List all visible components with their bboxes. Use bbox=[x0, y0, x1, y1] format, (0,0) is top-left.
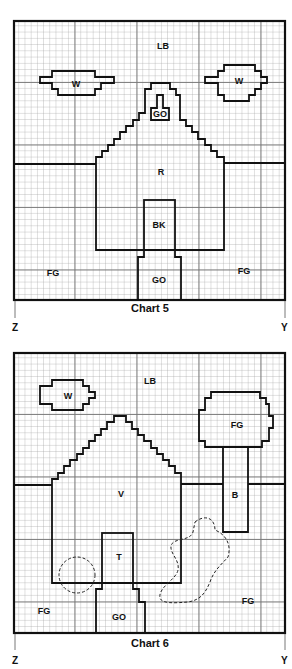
label-tree-top: FG bbox=[231, 420, 244, 430]
corner-label-y: Y bbox=[281, 655, 288, 666]
corner-label-z: Z bbox=[12, 655, 18, 666]
label-tree-trunk: B bbox=[232, 490, 239, 500]
chart-6: LB W FG B V T GO FG FG Chart 6 Z Y bbox=[0, 332, 292, 669]
chart-5-grid bbox=[0, 0, 292, 335]
label-house: R bbox=[158, 167, 165, 177]
label-sky: LB bbox=[157, 41, 169, 51]
label-ground-right: FG bbox=[242, 596, 255, 606]
label-ground-left: FG bbox=[47, 268, 60, 278]
label-ground-left: FG bbox=[38, 606, 51, 616]
label-path: GO bbox=[112, 612, 126, 622]
label-house: V bbox=[118, 489, 124, 499]
chart-5-caption: Chart 5 bbox=[131, 302, 169, 314]
label-cloud: W bbox=[64, 391, 73, 401]
label-cloud-right: W bbox=[235, 76, 244, 86]
label-cloud-left: W bbox=[72, 79, 81, 89]
chart-6-caption: Chart 6 bbox=[131, 637, 169, 649]
label-chimney-window: GO bbox=[153, 109, 167, 119]
label-ground-right: FG bbox=[238, 266, 251, 276]
chart-5: LB W W GO R BK GO FG FG Chart 5 Z Y bbox=[0, 0, 292, 335]
label-sky: LB bbox=[144, 376, 156, 386]
label-door: BK bbox=[153, 220, 166, 230]
label-path: GO bbox=[152, 275, 166, 285]
label-door: T bbox=[116, 552, 122, 562]
